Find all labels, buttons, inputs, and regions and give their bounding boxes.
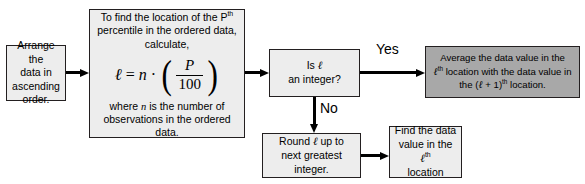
node-average-line-3-a: the ( xyxy=(459,79,478,90)
arrow-decision-to-average xyxy=(360,69,425,76)
arrow-round-to-find xyxy=(361,152,389,159)
arrow-arrange-to-formula xyxy=(66,69,89,76)
node-round-up: Round ℓ up to next greatest integer. xyxy=(262,133,361,178)
node-formula-line-5: observations in the ordered data. xyxy=(94,113,240,140)
node-formula-line-1: To find the location of the Pth xyxy=(94,10,240,24)
node-decision-is-integer: Is ℓ an integer? xyxy=(269,49,360,97)
node-arrange-line-3: ascending xyxy=(11,80,61,93)
node-formula-line-1-text: To find the location of the P xyxy=(101,11,228,23)
equation-dot: · xyxy=(151,65,156,85)
node-formula-line-4-a: where xyxy=(110,100,142,112)
node-round-line-1-b: up to xyxy=(318,135,344,147)
node-formula-line-4: where n is the number of xyxy=(94,100,240,113)
arrow-shaft xyxy=(66,71,81,74)
node-formula-text: To find the location of the Pth percenti… xyxy=(90,7,244,140)
arrow-head xyxy=(260,69,269,77)
node-decision-text: Is ℓ an integer? xyxy=(270,59,359,87)
node-average-line-2-rest: location with the data value in xyxy=(443,66,572,77)
node-average-values: Average the data value in the ℓth locati… xyxy=(425,46,580,98)
node-decision-line-1: Is ℓ xyxy=(274,59,355,73)
node-formula-line-2: percentile in the ordered data, xyxy=(94,24,240,37)
node-average-line-1: Average the data value in the xyxy=(430,52,575,64)
node-average-line-3-c: location. xyxy=(507,79,545,90)
node-round-line-1-a: Round xyxy=(279,135,313,147)
equation-equals: = xyxy=(126,65,135,85)
equation-denominator: 100 xyxy=(176,77,203,93)
node-formula-line-1-sup: th xyxy=(227,10,233,17)
node-round-text: Round ℓ up to next greatest integer. xyxy=(263,135,360,176)
node-average-line-2: ℓth location with the data value in xyxy=(430,65,575,78)
node-find-line-2-a: value in the xyxy=(399,138,453,150)
equation-fraction: P 100 xyxy=(176,58,203,93)
node-find-line-2-sup: th xyxy=(425,151,431,158)
node-decision-line-1-a: Is xyxy=(307,59,318,71)
node-round-line-1: Round ℓ up to xyxy=(267,135,356,149)
equation-numerator: P xyxy=(182,58,197,74)
equation-paren-close: ) xyxy=(207,60,217,90)
arrow-head xyxy=(380,152,389,160)
arrow-shaft xyxy=(360,71,417,74)
node-average-line-3-b: + 1) xyxy=(483,79,502,90)
arrow-head xyxy=(310,124,318,133)
node-round-line-2: next greatest integer. xyxy=(267,149,356,176)
node-find-value: Find the data value in the ℓth location xyxy=(389,126,462,178)
arrow-shaft xyxy=(245,71,261,74)
equation-n: n xyxy=(139,65,147,85)
equation-lhs: ℓ xyxy=(115,64,122,86)
flowchart-canvas: Arrange the data in ascending order. To … xyxy=(0,0,585,184)
arrow-head xyxy=(416,69,425,77)
arrow-shaft xyxy=(313,97,316,125)
node-formula-equation: ℓ = n · ( P 100 ) xyxy=(94,58,240,93)
node-average-line-3: the (ℓ + 1)th location. xyxy=(430,78,575,91)
node-find-line-3: location xyxy=(394,166,457,179)
node-find-line-1: Find the data xyxy=(394,124,457,137)
node-formula: To find the location of the Pth percenti… xyxy=(89,9,245,138)
node-decision-line-2: an integer? xyxy=(274,73,355,86)
arrow-formula-to-decision xyxy=(245,69,269,76)
node-formula-line-3: calculate, xyxy=(94,38,240,51)
arrow-shaft xyxy=(361,154,381,157)
equation-paren-open: ( xyxy=(162,60,172,90)
branch-label-yes: Yes xyxy=(376,41,399,57)
node-arrange-line-4: order. xyxy=(11,93,61,106)
node-formula-line-4-b: is the number of xyxy=(146,100,224,112)
node-arrange-line-1: Arrange the xyxy=(11,39,61,66)
arrow-decision-to-round xyxy=(311,97,318,133)
node-arrange-line-2: data in xyxy=(11,66,61,79)
node-find-text: Find the data value in the ℓth location xyxy=(390,124,461,179)
node-find-line-2: value in the ℓth xyxy=(394,138,457,166)
node-arrange-data-text: Arrange the data in ascending order. xyxy=(7,39,65,106)
arrow-head xyxy=(80,69,89,77)
node-arrange-data: Arrange the data in ascending order. xyxy=(6,45,66,101)
node-decision-line-1-l: ℓ xyxy=(318,59,323,72)
branch-label-no: No xyxy=(320,100,338,116)
node-average-text: Average the data value in the ℓth locati… xyxy=(426,52,579,91)
